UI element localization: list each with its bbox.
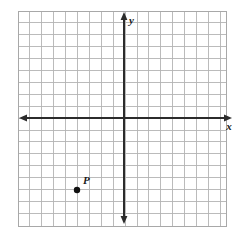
y-axis-label: y <box>127 14 134 26</box>
coordinate-plane-figure: y x P <box>0 0 245 243</box>
point-p-dot <box>74 187 80 193</box>
x-axis-label: x <box>225 120 232 132</box>
coordinate-plane-svg: y x P <box>0 0 245 243</box>
point-p-label: P <box>83 174 90 186</box>
